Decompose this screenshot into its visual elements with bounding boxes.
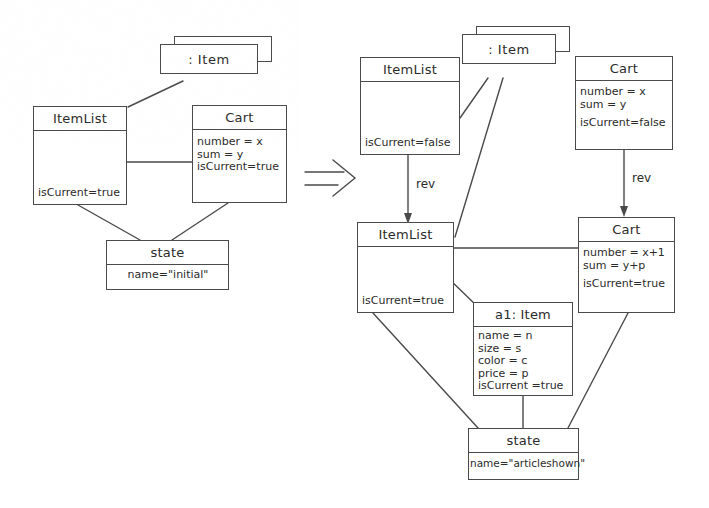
right-cart-new-title: Cart [579, 218, 674, 241]
left-itemlist-title: ItemList [34, 107, 126, 130]
right-a1item-attr-name: name = n [478, 330, 569, 343]
right-itemlist-new-title: ItemList [358, 223, 453, 246]
right-cart-old-box[interactable]: Cart number = x sum = y isCurrent=false [575, 56, 673, 150]
left-itemlist-attr-iscurrent: isCurrent=true [38, 187, 120, 200]
left-item-title: : Item [188, 52, 230, 67]
right-cart-old-attr-iscurrent: isCurrent=false [580, 117, 669, 130]
right-state-attrs: name="articleshown" [469, 453, 578, 472]
link-item-to-itemlist-old-right [460, 78, 488, 118]
right-cart-new-box[interactable]: Cart number = x+1 sum = y+p isCurrent=tr… [578, 217, 675, 313]
right-cart-new-attr-number: number = x+1 [583, 247, 671, 260]
right-itemlist-new-attr-iscurrent: isCurrent=true [362, 295, 444, 308]
left-item-front-box: : Item [160, 44, 258, 74]
right-itemlist-old-attr-iscurrent: isCurrent=false [365, 137, 451, 150]
right-state-title: state [469, 429, 578, 452]
transformation-arrow [305, 160, 355, 196]
link-cart-state-right [568, 313, 628, 428]
left-state-box[interactable]: state name="initial" [106, 240, 229, 290]
right-a1item-attr-iscurrent: isCurrent =true [478, 380, 569, 393]
right-item-front-box: : Item [462, 34, 556, 64]
link-itemlist-state-left [78, 205, 140, 240]
left-itemlist-attrs: isCurrent=true [34, 184, 123, 202]
right-state-box[interactable]: state name="articleshown" [468, 428, 579, 480]
right-a1item-attrs: name = n size = s color = c price = p is… [474, 327, 572, 395]
right-itemlist-old-title: ItemList [361, 58, 459, 81]
right-cart-old-attr-sum: sum = y [580, 99, 669, 112]
left-cart-box[interactable]: Cart number = x sum = y isCurrent=true [192, 105, 287, 203]
right-cart-new-attr-iscurrent: isCurrent=true [583, 278, 671, 291]
left-cart-attr-iscurrent: isCurrent=true [197, 161, 283, 174]
left-itemlist-divider [34, 130, 126, 131]
right-itemlist-new-box[interactable]: ItemList isCurrent=true [357, 222, 454, 313]
rev-label-itemlist: rev [414, 178, 437, 190]
right-itemlist-old-attrs: isCurrent=false [361, 134, 454, 152]
right-itemlist-old-divider [361, 81, 459, 82]
right-cart-old-attrs: number = x sum = y isCurrent=false [576, 81, 672, 132]
right-a1item-title: a1: Item [474, 303, 572, 326]
right-state-attr-name: name="articleshown" [470, 457, 577, 470]
right-a1item-attr-color: color = c [478, 355, 569, 368]
rev-label-cart: rev [630, 172, 653, 184]
link-cart-state-left [172, 203, 228, 240]
right-a1item-box[interactable]: a1: Item name = n size = s color = c pri… [473, 302, 573, 396]
right-cart-old-attr-number: number = x [580, 86, 669, 99]
right-itemlist-new-divider [358, 246, 453, 247]
left-cart-attr-number: number = x [197, 136, 283, 149]
rev-arrow-itemlist [404, 155, 412, 224]
right-itemlist-new-attrs: isCurrent=true [358, 292, 447, 310]
left-cart-attrs: number = x sum = y isCurrent=true [193, 130, 286, 176]
left-itemlist-box[interactable]: ItemList isCurrent=true [33, 106, 127, 205]
right-item-multiobject[interactable]: : Item [462, 26, 572, 68]
link-itemlist-state-right [373, 313, 478, 428]
left-state-attr-name: name="initial" [111, 269, 225, 282]
right-cart-new-attr-sum: sum = y+p [583, 260, 671, 273]
right-cart-old-title: Cart [576, 57, 672, 80]
left-state-title: state [107, 241, 228, 264]
right-item-title: : Item [488, 42, 530, 57]
link-item-to-itemlist-new-right [455, 78, 503, 237]
link-item-to-itemlist-left [128, 81, 183, 107]
left-item-multiobject[interactable]: : Item [160, 36, 272, 76]
left-state-attrs: name="initial" [107, 265, 228, 284]
right-cart-new-attrs: number = x+1 sum = y+p isCurrent=true [579, 242, 674, 293]
left-cart-title: Cart [193, 106, 286, 129]
right-itemlist-old-box[interactable]: ItemList isCurrent=false [360, 57, 460, 155]
rev-arrow-cart [620, 150, 628, 217]
